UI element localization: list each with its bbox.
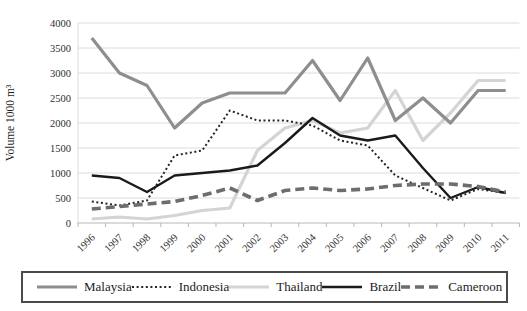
x-tick-label-1996: 1996 [75,232,98,255]
x-tick-label-2007: 2007 [378,232,401,255]
x-tick-label-1997: 1997 [102,232,125,255]
legend-label-malaysia: Malaysia [84,279,132,295]
legend-box: MalaysiaIndonesiaThailandBrazilCameroon [21,271,508,303]
y-tick-label-0: 0 [66,218,71,229]
y-tick-label-2000: 2000 [50,118,71,129]
x-tick-label-2004: 2004 [295,231,318,254]
y-tick-label-4000: 4000 [50,18,71,29]
y-axis-title: Volume 1000 m³ [4,84,16,161]
x-tick-label-2011: 2011 [489,232,511,254]
series-line-malaysia [92,38,506,128]
y-tick-label-1500: 1500 [50,143,71,154]
chart-canvas: Volume 1000 m³ 0500100015002000250030003… [0,0,527,266]
x-tick-label-2002: 2002 [240,232,263,255]
legend-item-brazil: Brazil [322,279,401,295]
x-tick-label-1999: 1999 [157,232,180,255]
legend-item-cameroon: Cameroon [401,279,502,295]
y-tick-label-2500: 2500 [50,93,71,104]
legend-label-brazil: Brazil [369,279,401,295]
legend-line-cameroon-icon [401,283,441,291]
y-tick-label-1000: 1000 [50,168,71,179]
legend-item-malaysia: Malaysia [37,279,132,295]
x-tick-label-2005: 2005 [323,232,346,255]
x-tick-label-2010: 2010 [461,232,484,255]
legend-line-thailand-icon [229,283,269,291]
legend-label-thailand: Thailand [276,279,322,295]
x-tick-label-2001: 2001 [213,232,236,255]
legend-item-thailand: Thailand [229,279,322,295]
x-tick-label-1998: 1998 [130,232,153,255]
y-tick-label-3000: 3000 [50,68,71,79]
x-tick-label-2003: 2003 [268,232,291,255]
series-line-brazil [92,118,506,198]
legend-line-malaysia-icon [37,283,77,291]
legend-label-indonesia: Indonesia [179,279,230,295]
x-tick-label-2000: 2000 [185,232,208,255]
legend-label-cameroon: Cameroon [448,279,502,295]
x-tick-label-2009: 2009 [433,232,456,255]
legend-line-brazil-icon [322,283,362,291]
y-tick-label-3500: 3500 [50,43,71,54]
plot-area: 0500100015002000250030003500400019961997… [50,18,520,255]
x-tick-label-2006: 2006 [351,232,374,255]
legend-line-indonesia-icon [132,283,172,291]
y-tick-label-500: 500 [55,193,71,204]
legend-item-indonesia: Indonesia [132,279,230,295]
x-tick-label-2008: 2008 [406,232,429,255]
volume-line-chart-figure: Volume 1000 m³ 0500100015002000250030003… [0,0,527,311]
